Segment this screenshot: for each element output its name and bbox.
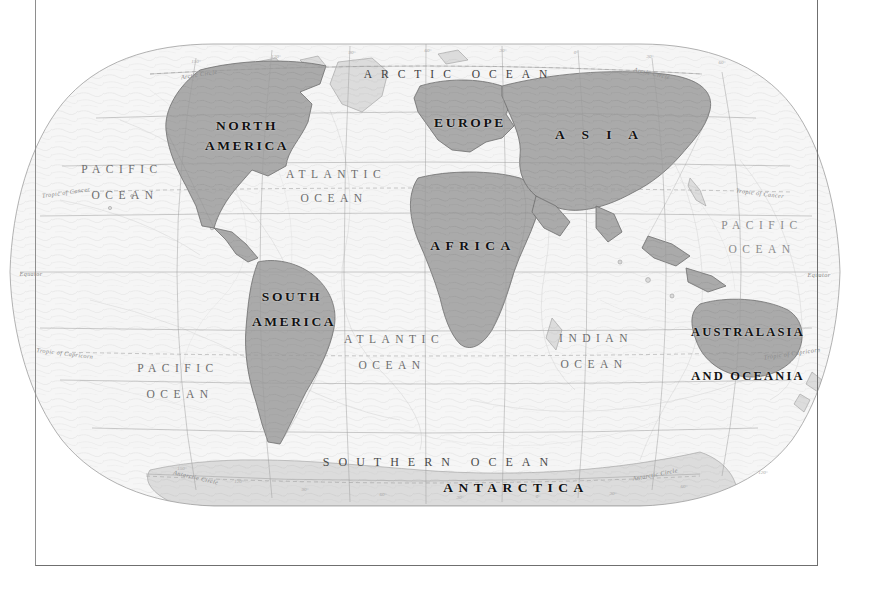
map-graphic bbox=[0, 0, 870, 590]
world-map[interactable]: ARCTIC OCEAN PACIFIC OCEAN PACIFIC OCEAN… bbox=[0, 0, 870, 590]
map-page: ARCTIC OCEAN PACIFIC OCEAN PACIFIC OCEAN… bbox=[0, 0, 870, 590]
